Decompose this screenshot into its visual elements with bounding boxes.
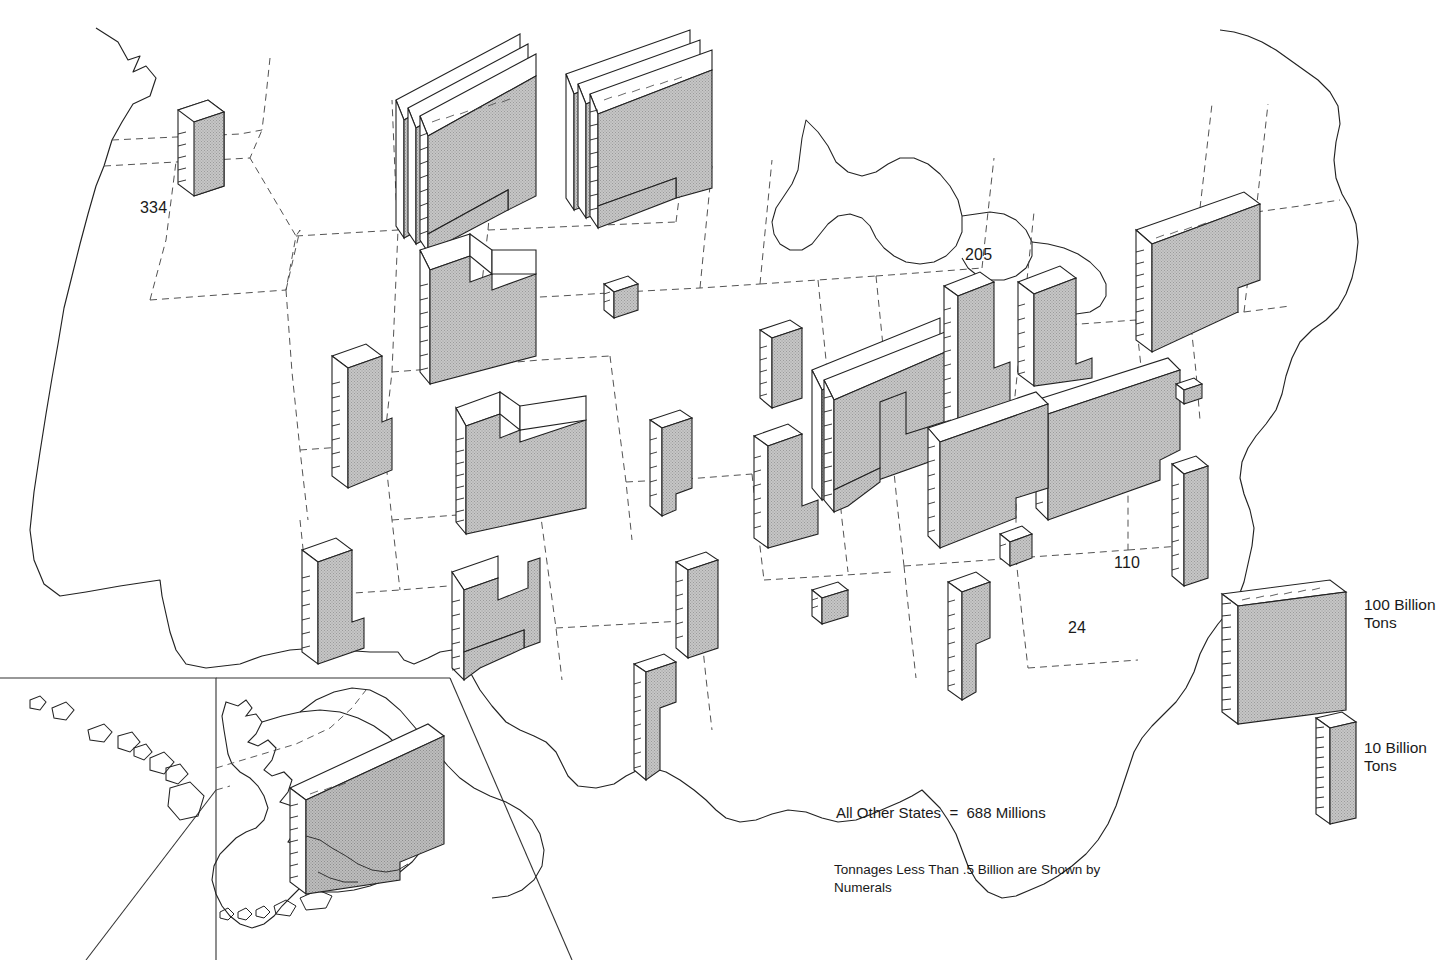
prism-washington bbox=[178, 100, 224, 196]
legend-block-100 bbox=[1222, 580, 1346, 724]
prism-south-dakota bbox=[604, 276, 638, 318]
prism-north-dakota-stack bbox=[566, 30, 712, 228]
legend-label-100-billion-line1: 100 Billion bbox=[1364, 595, 1436, 615]
prism-missouri bbox=[760, 320, 802, 408]
prism-colorado bbox=[456, 392, 586, 534]
map-illustration bbox=[0, 0, 1456, 960]
legend-label-100-billion-line2: Tons bbox=[1364, 613, 1397, 633]
legend-block-10 bbox=[1316, 712, 1356, 824]
note-numerals-line2: Numerals bbox=[834, 879, 892, 896]
note-all-other-states: All Other States = 688 Millions bbox=[836, 803, 1046, 822]
numeral-label-oregon: 334 bbox=[140, 198, 167, 218]
prism-utah bbox=[332, 344, 392, 488]
prism-map-canvas: 334 205 110 24 100 Billion Tons 10 Billi… bbox=[0, 0, 1456, 960]
numeral-label-michigan: 205 bbox=[965, 245, 992, 265]
legend-label-10-billion-line2: Tons bbox=[1364, 756, 1397, 776]
prism-iowa bbox=[754, 424, 818, 548]
legend-blocks bbox=[1222, 580, 1356, 824]
prism-new-mexico bbox=[452, 556, 540, 680]
legend-label-10-billion-line1: 10 Billion bbox=[1364, 738, 1427, 758]
note-numerals-line1: Tonnages Less Than .5 Billion are Shown … bbox=[834, 861, 1100, 878]
state-prism-blocks bbox=[178, 30, 1260, 780]
prism-arizona bbox=[302, 538, 364, 664]
prism-oklahoma bbox=[634, 654, 676, 780]
prism-pennsylvania bbox=[1136, 192, 1260, 352]
prism-virginia bbox=[1172, 456, 1208, 586]
alaska-hawaii-inset bbox=[0, 678, 572, 960]
prism-tennessee bbox=[1000, 526, 1032, 566]
numeral-label-georgia: 24 bbox=[1068, 618, 1086, 638]
prism-texas bbox=[812, 582, 848, 624]
prism-nebraska bbox=[650, 410, 692, 516]
prism-ohio bbox=[1018, 266, 1092, 386]
prism-alabama bbox=[948, 572, 990, 700]
prism-kansas bbox=[676, 552, 718, 658]
prism-montana-stack bbox=[396, 34, 536, 252]
numeral-label-north-carolina: 110 bbox=[1114, 553, 1140, 573]
prism-alaska bbox=[290, 724, 444, 894]
